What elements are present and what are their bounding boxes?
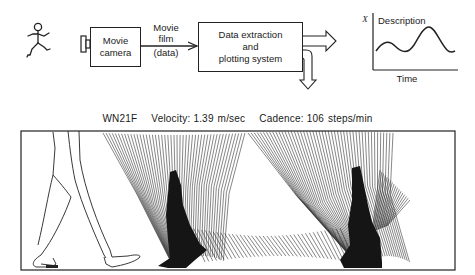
- cadence-value: 106 steps/min: [307, 113, 373, 124]
- cadence: Cadence:106 steps/min: [259, 113, 372, 124]
- film-label-line1: Movie: [146, 22, 186, 33]
- camera-label-line1: Movie: [103, 35, 128, 47]
- subject-id: WN21F: [102, 113, 137, 124]
- movie-camera-box: Movie camera: [90, 27, 141, 67]
- velocity-value: 1.39 m/sec: [193, 113, 245, 124]
- processor-line1: Data extraction: [219, 29, 283, 41]
- movie-film-label: Movie film (data): [146, 22, 186, 58]
- right-output-arrow: [302, 31, 336, 51]
- walking-legs-illustration: [33, 131, 140, 267]
- processor-line2: and: [243, 41, 259, 53]
- data-extraction-box: Data extraction and plotting system: [198, 22, 303, 72]
- graph-y-axis-label: X: [359, 13, 371, 25]
- film-label-line2: film: [146, 33, 186, 44]
- graph-curve-label: Description: [378, 15, 426, 27]
- velocity: Velocity:1.39 m/sec: [151, 113, 245, 124]
- gait-caption: WN21F Velocity:1.39 m/sec Cadence:106 st…: [0, 113, 475, 124]
- film-label-line3: (data): [146, 47, 186, 58]
- camera-lens-icon: [81, 36, 90, 52]
- processor-line3: plotting system: [219, 53, 282, 65]
- velocity-label: Velocity:: [151, 113, 190, 124]
- camera-label-line2: camera: [100, 47, 132, 59]
- cadence-label: Cadence:: [259, 113, 303, 124]
- graph-x-axis-label: Time: [392, 73, 422, 85]
- stick-figure-walking-icon: [27, 23, 50, 57]
